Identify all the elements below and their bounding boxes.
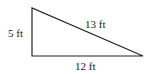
right-triangle-diagram: 5 ft 13 ft 12 ft [0, 0, 150, 74]
horizontal-leg-label: 12 ft [75, 60, 95, 72]
triangle-shape [32, 8, 143, 56]
vertical-leg-label: 5 ft [8, 27, 23, 39]
hypotenuse-label: 13 ft [85, 18, 105, 30]
